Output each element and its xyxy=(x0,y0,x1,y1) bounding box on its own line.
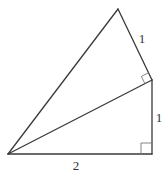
edge-upper-right xyxy=(118,9,152,80)
label-right-vertical: 1 xyxy=(156,110,163,125)
triangle-diagram: 2 1 1 xyxy=(0,0,166,176)
edge-outer-hypotenuse xyxy=(8,9,118,154)
label-bottom: 2 xyxy=(73,158,80,173)
right-angle-mark-bottom xyxy=(141,143,152,154)
label-upper-right: 1 xyxy=(139,31,146,46)
edge-inner-hypotenuse xyxy=(8,80,152,154)
